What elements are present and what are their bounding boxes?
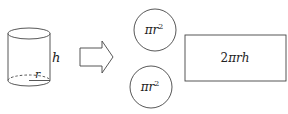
height-label: h <box>52 50 60 65</box>
top-circle-label: πr2 <box>144 22 164 37</box>
cylinder-bottom-back-arc <box>8 75 50 81</box>
radius-label: r <box>35 68 41 81</box>
net-of-cylinder-diagram: h r πr2 πr2 2πrh <box>0 0 288 114</box>
bottom-circle-label: πr2 <box>140 79 160 94</box>
cylinder <box>8 28 50 86</box>
right-arrow-icon <box>80 41 113 73</box>
cylinder-bottom-front-arc <box>8 81 50 87</box>
rectangle-label: 2πrh <box>221 51 250 65</box>
cylinder-top-ellipse <box>8 28 50 39</box>
